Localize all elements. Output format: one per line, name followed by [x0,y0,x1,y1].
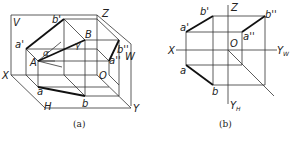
label-a-double-prime: a'' [243,31,255,42]
caption-b: (b) [219,119,232,129]
label-alpha: α [43,48,49,58]
label-a: a [37,86,43,97]
label-b-prime: b' [200,6,209,17]
label-a: a [180,65,186,76]
figure-b-orthographic-projection: Z b' b'' a' a'' O X YW a b YH (b) [167,2,290,129]
projector-line [64,19,85,40]
label-origin: O [230,38,238,49]
h-plane-frame [11,75,131,108]
label-origin: O [99,70,107,81]
label-x: X [167,45,176,56]
label-v-plane: V [13,17,21,28]
side-projection-a2-b2 [242,16,265,32]
label-a-double-prime: a'' [109,55,121,66]
top-projection-ab [186,65,213,85]
projection-diagrams: V b' Z a' B γ α A b'' W a'' X O a H b Y … [0,0,291,142]
label-b-double-prime: b'' [265,9,277,20]
angle-ray [38,61,62,67]
label-B: B [85,29,92,40]
label-w-plane: W [125,51,136,62]
label-y-h: YH [230,100,241,112]
projector-line [109,75,119,85]
label-b-prime: b' [52,14,61,25]
label-y-w: YW [277,45,290,57]
label-z: Z [230,2,239,13]
projector-line [97,49,109,61]
top-projection-ab [38,87,85,96]
caption-a: (a) [73,119,85,129]
label-b: b [212,86,218,97]
projector-line [97,19,119,40]
label-x: X [1,70,10,81]
label-h-plane: H [44,101,52,112]
label-a-prime: a' [15,39,24,50]
label-y: Y [133,103,140,114]
label-b: b [82,98,88,109]
label-gamma: γ [75,40,81,50]
front-projection-a-prime-b-prime [186,16,213,32]
label-A: A [29,57,37,68]
figure-a-isometric-projection: V b' Z a' B γ α A b'' W a'' X O a H b Y … [1,8,140,129]
label-a-prime: a' [180,22,189,33]
45-degree-line [228,50,274,96]
label-z: Z [101,8,110,19]
